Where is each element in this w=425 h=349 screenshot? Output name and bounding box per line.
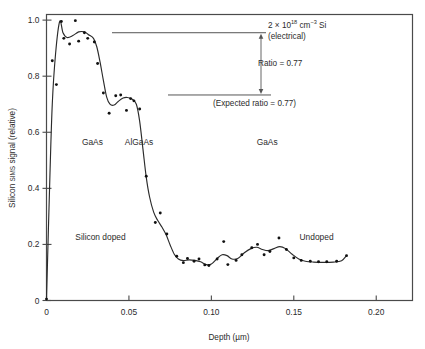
data-point [175, 255, 178, 258]
data-point [62, 37, 65, 40]
data-point [45, 298, 48, 301]
data-point [108, 112, 111, 115]
data-point [96, 62, 99, 65]
data-point [309, 260, 312, 263]
data-point [119, 94, 122, 97]
x-tick-label: 0.15 [286, 307, 303, 317]
data-point [250, 246, 253, 249]
data-point [263, 253, 266, 256]
data-point [203, 263, 206, 266]
y-tick-label: 0.4 [28, 183, 40, 193]
y-tick-label: 1.0 [28, 15, 40, 25]
chart-background [0, 0, 425, 349]
doping-region-label: Silicon doped [75, 232, 126, 242]
doping-region-label: Undoped [300, 232, 334, 242]
concentration-annotation-sublabel: (electrical) [268, 32, 306, 41]
data-point [207, 264, 210, 267]
data-point [132, 99, 135, 102]
data-point [235, 259, 238, 262]
data-point [335, 260, 338, 263]
data-point [186, 257, 189, 260]
expected-ratio-annotation-label: (Expected ratio = 0.77) [213, 99, 296, 108]
data-point [125, 109, 128, 112]
data-point [51, 59, 54, 62]
data-point [198, 258, 201, 261]
x-tick-label: 0.10 [203, 307, 220, 317]
y-tick-label: 0 [35, 296, 40, 306]
y-axis-title: Silicon SIMS signal (relative) [8, 108, 17, 208]
layer-region-label: GaAs [82, 137, 103, 147]
data-point [345, 254, 348, 257]
data-point [114, 94, 117, 97]
data-point [278, 237, 281, 240]
data-point [68, 42, 71, 45]
data-point [86, 37, 89, 40]
data-point [138, 108, 141, 111]
sims-depth-profile-figure: 00.050.100.150.20 00.20.40.60.81.0 2 × 1… [0, 0, 425, 349]
x-tick-label: 0.20 [368, 307, 385, 317]
layer-region-label: GaAs [257, 137, 278, 147]
concentration-annotation-label: 2 × 1018 cm−3 Si [268, 19, 327, 30]
data-point [93, 41, 96, 44]
data-point [240, 253, 243, 256]
data-point [216, 258, 219, 261]
data-point [77, 40, 80, 43]
data-point [60, 20, 63, 23]
data-point [154, 221, 157, 224]
data-point [256, 243, 259, 246]
chart-canvas: 00.050.100.150.20 00.20.40.60.81.0 2 × 1… [0, 0, 425, 349]
y-tick-label: 0.6 [28, 127, 40, 137]
ratio-annotation-label: Ratio = 0.77 [258, 59, 303, 68]
data-point [300, 259, 303, 262]
data-point [317, 260, 320, 263]
y-tick-label: 0.2 [28, 239, 40, 249]
data-point [268, 250, 271, 253]
data-point [226, 263, 229, 266]
x-tick-label: 0 [44, 307, 49, 317]
data-point [102, 92, 105, 95]
x-tick-label: 0.05 [121, 307, 138, 317]
data-point [159, 212, 162, 215]
data-point [129, 97, 132, 100]
data-point [193, 260, 196, 263]
data-point [285, 248, 288, 251]
data-point [165, 233, 168, 236]
layer-region-label: AlGaAs [125, 137, 153, 147]
data-point [182, 261, 185, 264]
data-point [83, 31, 86, 34]
data-point [325, 260, 328, 263]
data-point [292, 256, 295, 259]
data-point [222, 240, 225, 243]
data-point [74, 19, 77, 22]
data-point [55, 83, 58, 86]
y-tick-label: 0.8 [28, 71, 40, 81]
x-axis-title: Depth (µm) [208, 333, 249, 342]
data-point [145, 175, 148, 178]
